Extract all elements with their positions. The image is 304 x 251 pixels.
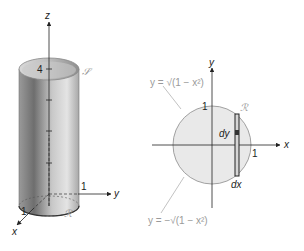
z-tick-4: 4 <box>37 64 43 75</box>
region-label-3d: ℛ <box>64 208 73 219</box>
lower-curve-label: y = −√(1 − x²) <box>148 215 208 226</box>
area-element <box>235 130 239 135</box>
dy-label: dy <box>219 128 231 139</box>
integration-strip <box>235 114 239 176</box>
cylinder-figure: z 4 𝒮 1 y 1 x ℛ <box>11 10 120 237</box>
x-axis-label-2d: x <box>283 139 290 150</box>
y-axis-label-2d: y <box>208 57 215 68</box>
x-tick-1-2d: 1 <box>252 148 258 159</box>
y-tick-1-2d: 1 <box>202 101 208 112</box>
disk-figure: y x 1 1 ℛ dy dx y = √(1 − x²) y = −√(1 −… <box>148 57 290 226</box>
upper-curve-label: y = √(1 − x²) <box>150 77 204 88</box>
z-axis-label: z <box>44 10 50 21</box>
surface-label: 𝒮 <box>82 66 93 77</box>
x-tick-1: 1 <box>21 206 27 217</box>
y-tick-1: 1 <box>81 181 87 192</box>
dx-label: dx <box>231 179 243 190</box>
region-label-2d: ℛ <box>240 102 249 113</box>
y-axis-label: y <box>113 188 120 199</box>
diagram-canvas: z 4 𝒮 1 y 1 x ℛ y x 1 1 ℛ dy dx y = √(1 … <box>0 0 304 251</box>
x-axis-label: x <box>11 226 18 237</box>
